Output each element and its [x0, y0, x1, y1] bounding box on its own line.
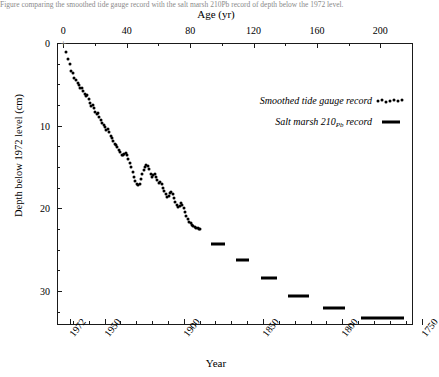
- tide-gauge-point: [127, 157, 130, 160]
- y-minor-tick: [57, 312, 60, 313]
- y-minor-tick: [57, 84, 60, 85]
- y-major-tick: [57, 208, 62, 209]
- y-minor-tick: [57, 270, 60, 271]
- bottom-axis-title: Year: [0, 357, 432, 369]
- bottom-minor-tick: [231, 321, 232, 325]
- y-minor-tick: [57, 229, 60, 230]
- tide-gauge-point: [139, 178, 142, 181]
- y-minor-tick: [57, 64, 60, 65]
- legend-marker-tide-gauge-dot: [393, 98, 396, 101]
- legend-label-salt-marsh-suffix: record: [344, 116, 372, 127]
- y-tick-label: 0: [18, 38, 50, 49]
- y-major-tick: [57, 126, 62, 127]
- top-tick-label: 80: [185, 25, 195, 36]
- bottom-minor-tick: [374, 321, 375, 325]
- bottom-minor-tick: [168, 321, 169, 325]
- y-minor-tick: [57, 146, 60, 147]
- y-major-tick: [57, 291, 62, 292]
- bottom-minor-tick: [311, 321, 312, 325]
- tide-gauge-point: [130, 165, 133, 168]
- top-tick-label: 0: [61, 25, 66, 36]
- bottom-minor-tick: [152, 321, 153, 325]
- legend-label-salt-marsh: Salt marsh 210Pb record: [150, 116, 372, 129]
- bottom-minor-tick: [406, 321, 407, 325]
- top-tick-label: 160: [309, 25, 324, 36]
- right-spine: [412, 43, 413, 325]
- bottom-minor-tick: [295, 321, 296, 325]
- tide-gauge-point: [160, 182, 163, 185]
- legend-marker-tide-gauge-dot: [397, 99, 400, 102]
- tide-gauge-point: [68, 63, 71, 66]
- y-tick-label: 10: [18, 120, 50, 131]
- tide-gauge-point: [64, 51, 67, 54]
- top-major-tick: [317, 43, 318, 48]
- legend-marker-tide-gauge-dot: [385, 100, 388, 103]
- y-minor-tick: [57, 250, 60, 251]
- salt-marsh-segment: [288, 294, 309, 297]
- salt-marsh-segment: [236, 259, 249, 262]
- bottom-minor-tick: [247, 321, 248, 325]
- tide-gauge-point: [138, 182, 141, 185]
- tide-gauge-point: [171, 193, 174, 196]
- tide-gauge-point: [184, 210, 187, 213]
- tide-gauge-point: [199, 227, 202, 230]
- top-spine: [57, 43, 412, 44]
- bottom-minor-tick: [326, 321, 327, 325]
- tide-gauge-point: [131, 170, 134, 173]
- bottom-minor-tick: [390, 321, 391, 325]
- legend-marker-tide-gauge-dot: [381, 99, 384, 102]
- salt-marsh-segment: [361, 317, 404, 320]
- top-major-tick: [254, 43, 255, 48]
- y-tick-label: 20: [18, 203, 50, 214]
- tide-gauge-point: [142, 169, 145, 172]
- bottom-major-tick: [105, 319, 106, 325]
- tide-gauge-point: [67, 57, 70, 60]
- top-minor-tick: [158, 43, 159, 46]
- bottom-minor-tick: [136, 321, 137, 325]
- legend-label-tide-gauge: Smoothed tide gauge record: [150, 95, 372, 106]
- bottom-major-tick: [422, 319, 423, 325]
- legend-marker-tide-gauge-dot: [377, 100, 380, 103]
- salt-marsh-segment: [323, 307, 345, 310]
- legend-marker-tide-gauge-dot: [389, 99, 392, 102]
- y-minor-tick: [57, 105, 60, 106]
- legend-marker-salt-marsh-bar: [382, 121, 400, 124]
- legend-label-salt-marsh-prefix: Salt marsh 210: [275, 116, 336, 127]
- y-axis-title: Depth below 1972 level (cm): [13, 56, 24, 256]
- top-minor-tick: [285, 43, 286, 46]
- legend-label-salt-marsh-isotope: Pb: [336, 121, 344, 129]
- top-axis-title: Age (yr): [0, 8, 432, 20]
- top-major-tick: [127, 43, 128, 48]
- bottom-major-tick: [263, 319, 264, 325]
- tide-gauge-point: [86, 94, 89, 97]
- tide-gauge-point: [128, 161, 131, 164]
- top-minor-tick: [349, 43, 350, 46]
- salt-marsh-segment: [261, 276, 277, 279]
- bottom-minor-tick: [89, 321, 90, 325]
- origin-plus-marker: +: [60, 38, 66, 49]
- salt-marsh-segment: [211, 242, 225, 245]
- top-major-tick: [190, 43, 191, 48]
- bottom-minor-tick: [215, 321, 216, 325]
- top-tick-label: 200: [373, 25, 388, 36]
- tide-gauge-point: [148, 168, 151, 171]
- top-minor-tick: [222, 43, 223, 46]
- y-minor-tick: [57, 188, 60, 189]
- top-tick-label: 40: [122, 25, 132, 36]
- top-minor-tick: [95, 43, 96, 46]
- y-tick-label: 30: [18, 285, 50, 296]
- tide-gauge-point: [141, 173, 144, 176]
- top-tick-label: 120: [246, 25, 261, 36]
- tide-gauge-point: [72, 71, 75, 74]
- plot-area: +: [57, 43, 412, 324]
- y-minor-tick: [57, 167, 60, 168]
- legend-marker-tide-gauge-dot: [401, 98, 404, 101]
- bottom-major-tick: [342, 319, 343, 325]
- tide-gauge-point: [133, 175, 136, 178]
- bottom-major-tick: [70, 319, 71, 325]
- top-major-tick: [380, 43, 381, 48]
- bottom-major-tick: [184, 319, 185, 325]
